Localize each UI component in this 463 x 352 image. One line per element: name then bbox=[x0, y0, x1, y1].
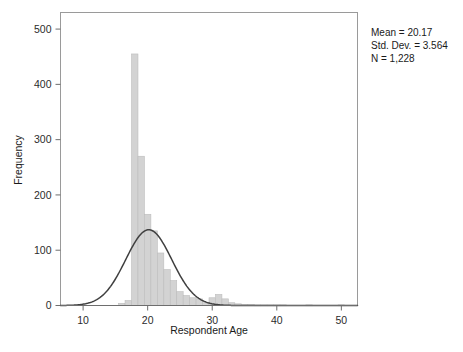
x-axis-ticks: 1020304050 bbox=[77, 306, 347, 326]
histogram-bar bbox=[132, 54, 138, 306]
y-tick-label: 0 bbox=[46, 299, 52, 311]
histogram-bar bbox=[157, 253, 163, 306]
stat-std-dev: Std. Dev. = 3.564 bbox=[371, 40, 448, 51]
histogram-bar bbox=[164, 270, 170, 306]
x-tick-label: 10 bbox=[77, 314, 89, 326]
histogram-chart: 1020304050 0100200300400500 Respondent A… bbox=[0, 0, 463, 352]
histogram-bar bbox=[183, 296, 189, 306]
y-axis-ticks: 0100200300400500 bbox=[34, 23, 61, 311]
histogram-bar bbox=[177, 292, 183, 306]
normal-distribution-curve bbox=[61, 230, 358, 306]
y-tick-label: 300 bbox=[34, 133, 52, 145]
y-tick-label: 100 bbox=[34, 244, 52, 256]
histogram-bar bbox=[144, 214, 150, 305]
y-axis-title: Frequency bbox=[12, 134, 24, 184]
histogram-bar bbox=[190, 298, 196, 306]
y-tick-label: 400 bbox=[34, 78, 52, 90]
histogram-bar bbox=[125, 301, 131, 306]
statistics-annotation: Mean = 20.17 Std. Dev. = 3.564 N = 1,228 bbox=[371, 27, 448, 64]
x-tick-label: 50 bbox=[336, 314, 348, 326]
y-tick-label: 500 bbox=[34, 23, 52, 35]
y-tick-label: 200 bbox=[34, 189, 52, 201]
histogram-bar bbox=[170, 281, 176, 306]
histogram-bar bbox=[151, 231, 157, 306]
chart-canvas: 1020304050 0100200300400500 Respondent A… bbox=[0, 0, 463, 352]
x-tick-label: 40 bbox=[271, 314, 283, 326]
x-axis-title: Respondent Age bbox=[170, 324, 248, 336]
plot-frame bbox=[61, 13, 358, 306]
x-tick-label: 20 bbox=[142, 314, 154, 326]
stat-mean: Mean = 20.17 bbox=[371, 27, 433, 38]
stat-n: N = 1,228 bbox=[371, 53, 415, 64]
histogram-bars bbox=[119, 54, 345, 306]
